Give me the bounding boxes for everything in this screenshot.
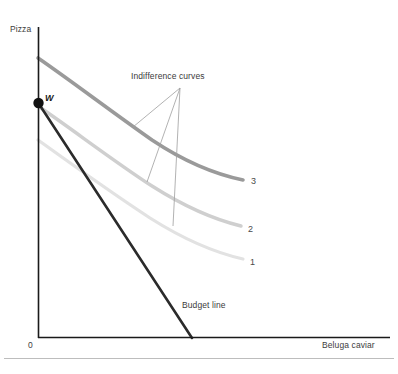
- endowment-point-label: W: [45, 93, 54, 103]
- y-axis-label: Pizza: [10, 24, 31, 34]
- origin-label: 0: [28, 340, 33, 350]
- budget-line-annotation: Budget line: [182, 300, 226, 310]
- budget-line: [39, 104, 192, 338]
- chart-canvas: [0, 0, 398, 374]
- indifference-curve-figure: Pizza Beluga caviar 0 W Indifference cur…: [0, 0, 398, 374]
- indifference-curve-2: [38, 106, 241, 226]
- indifference-curves-annotation: Indifference curves: [131, 71, 205, 81]
- x-axis-label: Beluga caviar: [322, 340, 375, 350]
- leader-lines: [133, 88, 180, 226]
- curve-label-2: 2: [248, 224, 253, 234]
- curve-label-3: 3: [251, 176, 256, 186]
- indifference-curve-1: [38, 140, 243, 259]
- curve-label-1: 1: [250, 257, 255, 267]
- endowment-point-marker: [33, 98, 43, 108]
